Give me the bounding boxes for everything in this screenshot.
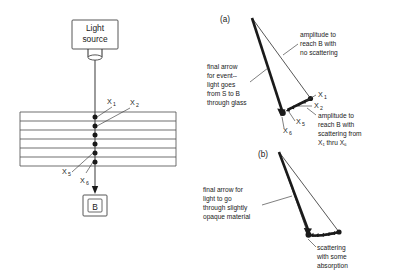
panel-a-note-scatter-line1: amplitude to: [318, 112, 354, 120]
panel-b-note-final-line2: light to go: [203, 195, 232, 203]
panel-b-scattering-chain: [306, 229, 342, 237]
left-label-x5-sub: 5: [68, 171, 71, 177]
panel-b-chain-end-dot: [306, 232, 312, 238]
panel-a-chain-end-dot: [280, 110, 286, 116]
figure-canvas: Light source: [0, 0, 397, 274]
left-label-x2: X 2: [130, 98, 139, 108]
panel-b-note-final-line1: final arrow for: [203, 186, 244, 193]
left-label-x6-sub: 6: [86, 180, 89, 186]
leader-x5: [72, 153, 93, 172]
scatter-point-x1: [93, 115, 98, 120]
left-label-x5: X 5: [62, 167, 71, 177]
panel-a-note-final-line5: through glass: [207, 99, 247, 107]
panel-b: (b): [203, 150, 348, 270]
panel-a-chain-head-4: [286, 108, 290, 112]
panel-a-note-no-scattering-line1: amplitude to: [300, 31, 336, 39]
panel-b-chain-origin-dot: [336, 229, 341, 234]
panel-b-note-absorption: scattering with some absorption: [308, 239, 348, 270]
panel-a-note-final-line2: for event--: [207, 72, 237, 79]
leader-x2: [97, 108, 130, 126]
panel-b-note-absorption-line2: with some: [316, 253, 347, 260]
panel-a: (a) amplitude: [207, 15, 362, 146]
panel-a-label-x1-text: X: [318, 90, 323, 99]
panel-b-note-final-line3: through slightly: [203, 204, 248, 212]
panel-a-leader-no-scattering: [283, 44, 298, 55]
left-label-x6: X 6: [80, 176, 89, 186]
panel-b-final-arrow: [279, 152, 309, 231]
panel-a-note-no-scattering-line3: no scattering: [300, 49, 338, 57]
panel-a-note-scatter-line3: scattering from: [318, 130, 362, 138]
detector-label: B: [92, 202, 98, 212]
light-source-label-line1: Light: [86, 23, 105, 33]
figure-svg: Light source: [0, 0, 397, 274]
panel-a-label-x1: X 1: [306, 90, 327, 101]
panel-b-note-final-line4: opaque material: [203, 213, 251, 221]
scatter-point-x6: [93, 160, 98, 165]
left-label-x1-sub: 1: [113, 101, 116, 107]
panel-a-label-x6: X 6: [282, 117, 292, 136]
panel-b-leader-final-arrow: [262, 196, 292, 205]
panel-a-note-scatter-line2: reach B with: [318, 121, 355, 128]
panel-a-note-scatter-line4: X₁ thru X₆: [318, 139, 347, 146]
panel-a-note-no-scattering: amplitude to reach B with no scattering: [283, 31, 338, 57]
panel-a-label-x2-text: X: [314, 101, 319, 110]
panel-a-note-with-scattering: amplitude to reach B with scattering fro…: [307, 108, 362, 146]
panel-a-label: (a): [220, 15, 230, 24]
panel-a-label-x2-sub: 2: [320, 105, 323, 111]
leader-x6: [86, 162, 93, 173]
scatter-point-x2: [93, 124, 98, 129]
scatter-point-x3: [93, 133, 98, 138]
panel-b-note-absorption-line1: scattering: [317, 244, 346, 252]
panel-a-label-x5: X 5: [289, 112, 305, 127]
panel-a-note-final-line3: light goes: [207, 81, 236, 89]
scatter-point-x4: [93, 142, 98, 147]
beam-arrowhead: [92, 186, 98, 194]
left-label-x2-text: X: [130, 98, 135, 107]
left-panel-apparatus: Light source: [20, 20, 176, 216]
left-label-x2-sub: 2: [136, 102, 139, 108]
scatter-point-x5: [93, 151, 98, 156]
panel-a-leader-x5: [289, 112, 295, 121]
left-label-x6-text: X: [80, 176, 85, 185]
panel-a-note-final-line1: final arrow: [207, 63, 238, 70]
panel-b-amplitude-no-scattering-vector: [279, 152, 339, 232]
panel-b-note-final-arrow: final arrow for light to go through slig…: [203, 186, 292, 221]
panel-a-label-x1-sub: 1: [324, 94, 327, 100]
panel-a-note-final-arrow: final arrow for event-- light goes from …: [207, 63, 268, 107]
source-aperture: [88, 55, 102, 60]
panel-a-note-no-scattering-line2: reach B with: [300, 40, 337, 47]
left-label-x1: X 1: [107, 97, 116, 107]
glass-slab: [20, 112, 176, 166]
panel-a-label-x5-sub: 5: [302, 121, 305, 127]
left-label-x5-text: X: [62, 167, 67, 176]
light-source-label-line2: source: [82, 34, 107, 44]
panel-a-leader-final-arrow: [250, 68, 268, 82]
panel-b-leader-absorption: [308, 239, 316, 247]
left-label-x1-text: X: [107, 97, 112, 106]
panel-a-label-x6-sub: 6: [289, 130, 292, 136]
panel-a-final-arrow: [252, 18, 283, 112]
panel-a-note-final-line4: from S to B: [207, 90, 241, 97]
panel-b-label: (b): [258, 150, 268, 159]
panel-a-label-x5-text: X: [296, 117, 301, 126]
panel-b-note-absorption-line3: absorption: [317, 262, 348, 270]
